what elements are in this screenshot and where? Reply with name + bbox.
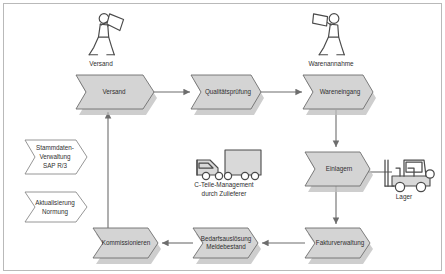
person-carrying-box-icon-label-warenannahme: Warenannahme <box>308 60 354 67</box>
process-node-einlagern-label: Einlagern <box>326 165 353 173</box>
process-flow-diagram: Versand Qualitätsprüfung Wareneingang Ei… <box>0 0 445 274</box>
open-node-stammdaten-label: Stammdaten- <box>36 144 74 151</box>
person-carrying-box-icon <box>89 14 123 55</box>
person-carrying-box-icon-label-versand: Versand <box>89 60 113 67</box>
forklift-icon-label: Lager <box>396 193 413 201</box>
process-node-bedarfsausloesung-label2: Meldebestand <box>206 243 246 250</box>
process-node-kommissionieren-label: Kommissionieren <box>102 239 151 246</box>
process-node-kommissionieren[interactable]: Kommissionieren <box>93 228 161 264</box>
open-node-aktualisierung-label: Aktualisierung <box>35 199 75 207</box>
process-node-bedarfsausloesung-label: Bedarfsauslösung <box>201 235 252 243</box>
process-node-einlagern[interactable]: Einlagern <box>305 152 373 192</box>
process-node-versand[interactable]: Versand <box>76 75 157 115</box>
delivery-truck-icon <box>197 150 261 180</box>
open-node-aktualisierung-label2: Normung <box>42 208 68 216</box>
delivery-truck-icon-label2: durch Zulieferer <box>202 190 248 197</box>
process-node-fakturverwaltung-label: Fakturverwaltung <box>316 239 365 247</box>
process-node-bedarfsausloesung[interactable]: Bedarfsauslösung Meldebestand <box>193 228 261 264</box>
process-node-wareneingang[interactable]: Wareneingang <box>303 75 376 115</box>
open-node-aktualisierung[interactable]: Aktualisierung Normung <box>25 192 87 222</box>
open-node-stammdaten[interactable]: Stammdaten- Verwaltung SAP R/3 <box>25 140 87 174</box>
process-node-versand-label: Versand <box>102 88 126 95</box>
open-node-stammdaten-label3: SAP R/3 <box>43 162 68 169</box>
forklift-icon <box>385 160 434 192</box>
diagram-canvas: Versand Qualitätsprüfung Wareneingang Ei… <box>0 0 445 274</box>
delivery-truck-icon-label: C-Teile-Management <box>194 181 254 189</box>
process-node-qualitaetspruefung-label: Qualitätsprüfung <box>205 88 252 96</box>
process-node-fakturverwaltung[interactable]: Fakturverwaltung <box>305 228 373 264</box>
person-carrying-box-icon <box>313 14 345 55</box>
open-node-stammdaten-label2: Verwaltung <box>39 153 71 161</box>
process-node-wareneingang-label: Wareneingang <box>320 88 361 96</box>
process-node-qualitaetspruefung[interactable]: Qualitätsprüfung <box>191 75 264 115</box>
